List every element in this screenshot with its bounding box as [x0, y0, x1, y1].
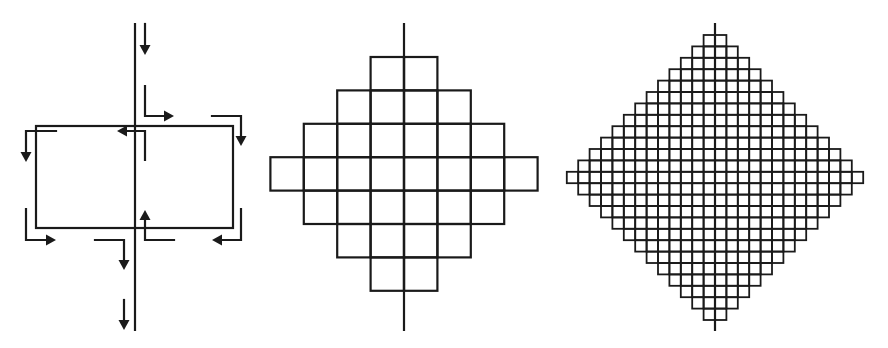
grid-cell: [818, 172, 829, 183]
grid-cell: [783, 229, 794, 240]
grid-cell: [795, 217, 806, 228]
grid-cell: [738, 183, 749, 194]
grid-cell: [840, 172, 851, 183]
grid-cell: [612, 172, 623, 183]
grid-cell: [726, 92, 737, 103]
grid-cell: [704, 138, 715, 149]
grid-cell: [601, 149, 612, 160]
grid-cell: [761, 172, 772, 183]
grid-cell: [681, 160, 692, 171]
grid-cell: [806, 217, 817, 228]
grid-cell: [738, 195, 749, 206]
grid-cell: [692, 263, 703, 274]
grid-cell: [669, 160, 680, 171]
grid-cell: [658, 206, 669, 217]
grid-cell: [704, 58, 715, 69]
grid-cell: [783, 206, 794, 217]
grid-cell: [337, 224, 370, 257]
grid-cell: [761, 92, 772, 103]
grid-cell: [749, 206, 760, 217]
grid-cell: [404, 257, 437, 290]
grid-cell: [749, 274, 760, 285]
grid-cell: [504, 157, 537, 190]
grid-cell: [715, 149, 726, 160]
grid-cell: [726, 138, 737, 149]
grid-cell: [738, 115, 749, 126]
flow-arrow-icon: [145, 86, 174, 122]
grid-cell: [715, 138, 726, 149]
grid-cell: [669, 69, 680, 80]
grid-cell: [404, 124, 437, 157]
grid-cell: [726, 240, 737, 251]
flow-panel: [21, 24, 247, 330]
grid-cell: [806, 160, 817, 171]
grid-cell: [749, 263, 760, 274]
grid-cell: [761, 126, 772, 137]
grid-cell: [681, 69, 692, 80]
grid-cell: [726, 183, 737, 194]
grid-cell: [337, 90, 370, 123]
grid-cell: [829, 195, 840, 206]
grid-cell: [635, 160, 646, 171]
grid-cell: [692, 126, 703, 137]
grid-cell: [647, 138, 658, 149]
flow-arrow-icon: [119, 300, 130, 330]
grid-cell: [681, 286, 692, 297]
grid-cell: [647, 217, 658, 228]
grid-cell: [795, 126, 806, 137]
grid-cell: [795, 206, 806, 217]
grid-cell: [738, 149, 749, 160]
grid-cell: [601, 206, 612, 217]
grid-cell: [647, 172, 658, 183]
grid-cell: [795, 195, 806, 206]
grid-cell: [658, 172, 669, 183]
grid-cell: [578, 183, 589, 194]
grid-cell: [715, 183, 726, 194]
grid-cell: [795, 138, 806, 149]
grid-cell: [692, 206, 703, 217]
grid-cell: [635, 240, 646, 251]
grid-cell: [726, 69, 737, 80]
grid-cell: [738, 263, 749, 274]
grid-cell: [726, 81, 737, 92]
grid-cell: [692, 240, 703, 251]
grid-cell: [658, 160, 669, 171]
grid-cell: [692, 160, 703, 171]
grid-cell: [704, 183, 715, 194]
grid-cell: [612, 217, 623, 228]
grid-cell: [647, 92, 658, 103]
grid-cell: [704, 274, 715, 285]
grid-cell: [829, 183, 840, 194]
grid-cell: [738, 81, 749, 92]
grid-cell: [715, 240, 726, 251]
grid-cell: [669, 183, 680, 194]
grid-cell: [738, 103, 749, 114]
grid-cell: [681, 138, 692, 149]
grid-cell: [715, 172, 726, 183]
grid-cell: [806, 126, 817, 137]
grid-cell: [772, 229, 783, 240]
grid-cell: [772, 240, 783, 251]
grid-cell: [404, 157, 437, 190]
grid-cell: [658, 149, 669, 160]
grid-cell: [635, 195, 646, 206]
grid-cell: [658, 81, 669, 92]
grid-cell: [783, 126, 794, 137]
grid-cell: [761, 206, 772, 217]
flow-arrow-icon: [140, 210, 175, 240]
grid-cell: [761, 149, 772, 160]
grid-cell: [715, 206, 726, 217]
grid-cell: [749, 69, 760, 80]
grid-cell: [681, 149, 692, 160]
grid-cell: [647, 240, 658, 251]
grid-cell: [635, 126, 646, 137]
grid-cell: [726, 274, 737, 285]
grid-cell: [806, 138, 817, 149]
grid-cell: [635, 229, 646, 240]
grid-cell: [738, 138, 749, 149]
grid-cell: [806, 195, 817, 206]
grid-cell: [635, 183, 646, 194]
grid-cell: [590, 149, 601, 160]
grid-cell: [635, 149, 646, 160]
grid-cell: [692, 195, 703, 206]
